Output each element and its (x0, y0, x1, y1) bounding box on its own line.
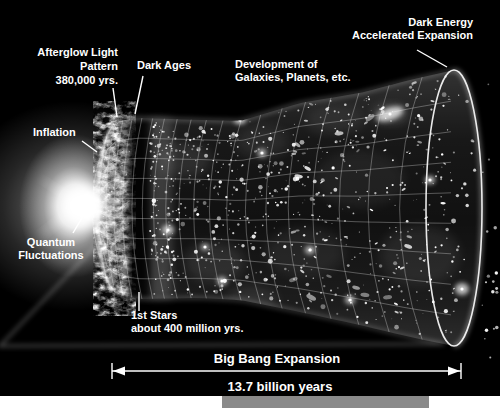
big-bang-expansion-label: Big Bang Expansion (177, 351, 377, 366)
dark-energy-line2: Accelerated Expansion (333, 29, 473, 42)
afterglow-line3: 380,000 yrs. (20, 73, 118, 87)
quantum-fluctuations-label: Quantum Fluctuations (8, 236, 94, 262)
quantum-line2: Fluctuations (8, 249, 94, 262)
development-line1: Development of (235, 58, 351, 71)
inflation-label: Inflation (33, 126, 76, 139)
afterglow-label: Afterglow Light Pattern 380,000 yrs. (20, 45, 118, 87)
quantum-line1: Quantum (8, 236, 94, 249)
bottom-strip-white-left (0, 396, 222, 408)
universe-timeline-diagram: Afterglow Light Pattern 380,000 yrs. Dar… (0, 0, 500, 408)
dark-ages-label: Dark Ages (137, 59, 191, 72)
duration-label: 13.7 billion years (180, 379, 380, 394)
first-stars-label: 1st Stars about 400 million yrs. (131, 309, 243, 335)
bottom-strip-white-right (429, 396, 500, 408)
afterglow-line2: Pattern (20, 59, 118, 73)
dark-energy-line1: Dark Energy (333, 16, 473, 29)
development-label: Development of Galaxies, Planets, etc. (235, 58, 351, 84)
afterglow-line1: Afterglow Light (20, 45, 118, 59)
bottom-strip-gray (222, 396, 429, 408)
dark-energy-label: Dark Energy Accelerated Expansion (333, 16, 473, 42)
first-stars-line2: about 400 million yrs. (131, 322, 243, 335)
first-stars-line1: 1st Stars (131, 309, 243, 322)
development-line2: Galaxies, Planets, etc. (235, 71, 351, 84)
